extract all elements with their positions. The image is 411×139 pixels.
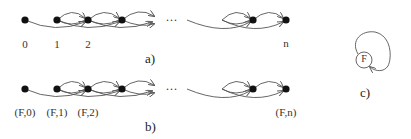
node-f1 bbox=[53, 85, 60, 92]
node-label-f0: (F,0) bbox=[15, 106, 36, 118]
diagram-canvas bbox=[0, 0, 411, 139]
caption-a: a) bbox=[145, 51, 155, 67]
node-label-f2: (F,2) bbox=[78, 106, 99, 118]
caption-b: b) bbox=[145, 119, 156, 135]
chain-graph-b bbox=[25, 81, 283, 98]
node-label-f1: (F,1) bbox=[47, 106, 68, 118]
chain-graph-a bbox=[25, 12, 283, 29]
node-fn bbox=[282, 85, 289, 92]
node-f0 bbox=[21, 85, 28, 92]
ellipsis-a: ... bbox=[166, 10, 178, 25]
node-3 bbox=[118, 16, 125, 23]
caption-c: c) bbox=[360, 85, 370, 101]
node-label-1: 1 bbox=[54, 38, 60, 50]
ellipsis-b: ... bbox=[166, 79, 178, 94]
node-n bbox=[282, 16, 289, 23]
node-label-0: 0 bbox=[22, 38, 28, 50]
node-n-minus-1 bbox=[249, 16, 256, 23]
node-f2 bbox=[84, 85, 91, 92]
node-label-2: 2 bbox=[85, 38, 91, 50]
node-1 bbox=[53, 16, 60, 23]
node-f3 bbox=[118, 85, 125, 92]
node-0 bbox=[21, 16, 28, 23]
self-loop-graph-c bbox=[355, 32, 390, 71]
node-fn-minus-1 bbox=[249, 85, 256, 92]
node-label-f: F bbox=[361, 53, 367, 64]
node-2 bbox=[84, 16, 91, 23]
node-label-n: n bbox=[283, 37, 289, 49]
node-label-fn: (F,n) bbox=[276, 106, 297, 118]
